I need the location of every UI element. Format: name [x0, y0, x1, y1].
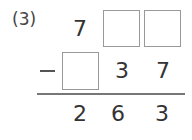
difference-hundreds-digit: 2 [62, 102, 98, 126]
sum-line [37, 93, 185, 95]
minuend-hundreds-digit: 7 [62, 17, 98, 41]
subtrahend-tens-digit: 3 [104, 59, 140, 83]
minuend-ones-answer-box[interactable] [144, 10, 181, 47]
subtrahend-ones-digit: 7 [145, 59, 181, 83]
minuend-tens-answer-box[interactable] [103, 10, 140, 47]
minus-sign [40, 70, 55, 72]
subtrahend-hundreds-answer-box[interactable] [62, 52, 99, 90]
difference-ones-digit: 3 [144, 102, 180, 126]
difference-tens-digit: 6 [100, 102, 136, 126]
problem-number: (3) [12, 9, 36, 29]
